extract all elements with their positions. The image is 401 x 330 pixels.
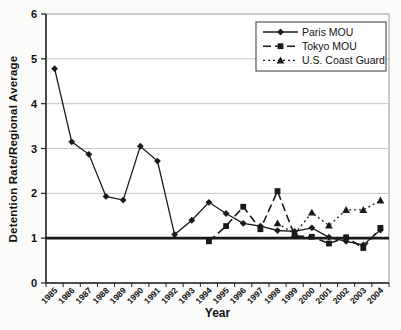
x-tick-label: 1992 (159, 285, 180, 306)
x-tick-label: 1985 (39, 285, 60, 306)
x-tick-label: 2004 (365, 285, 386, 306)
x-tick-label: 1998 (262, 285, 283, 306)
tokyo-mou-point (206, 238, 212, 244)
x-tick-label: 2002 (331, 285, 352, 306)
tokyo-mou-point (257, 226, 263, 232)
detention-rate-chart: Detention Rate/Regional Average 01234561… (0, 0, 401, 330)
x-tick-label: 1988 (90, 285, 111, 306)
tokyo-mou-point (275, 188, 281, 194)
x-tick-label: 2001 (313, 285, 334, 306)
legend-marker (278, 43, 284, 49)
legend-label: U.S. Coast Guard (302, 54, 385, 66)
tokyo-mou-point (326, 241, 332, 247)
tokyo-mou-point (360, 245, 366, 251)
y-tick-label: 0 (31, 277, 37, 289)
y-tick-label: 5 (31, 53, 37, 65)
x-tick-label: 1995 (211, 285, 232, 306)
tokyo-mou-point (309, 234, 315, 240)
y-tick-label: 6 (31, 8, 37, 20)
y-tick-label: 2 (31, 187, 37, 199)
x-tick-label: 1994 (193, 285, 214, 306)
plot-area: 0123456198519861987198819891990199119921… (0, 0, 401, 330)
x-tick-label: 1987 (73, 285, 94, 306)
y-tick-label: 3 (31, 143, 37, 155)
tokyo-mou-point (223, 223, 229, 229)
tokyo-mou-point (378, 225, 384, 231)
y-tick-label: 1 (31, 232, 37, 244)
x-tick-label: 1997 (245, 285, 266, 306)
x-tick-label: 1996 (228, 285, 249, 306)
x-tick-label: 2000 (296, 285, 317, 306)
x-tick-label: 1999 (279, 285, 300, 306)
x-tick-label: 1991 (142, 285, 163, 306)
x-tick-label: 2003 (348, 285, 369, 306)
tokyo-mou-point (240, 204, 246, 210)
x-tick-label: 1986 (56, 285, 77, 306)
tokyo-mou-point (343, 234, 349, 240)
legend-label: Paris MOU (302, 26, 353, 38)
x-tick-label: 1990 (125, 285, 146, 306)
x-tick-label: 1993 (176, 285, 197, 306)
x-tick-label: 1989 (108, 285, 129, 306)
y-tick-label: 4 (31, 98, 38, 110)
x-axis-title: Year (46, 306, 389, 320)
legend-label: Tokyo MOU (302, 40, 357, 52)
